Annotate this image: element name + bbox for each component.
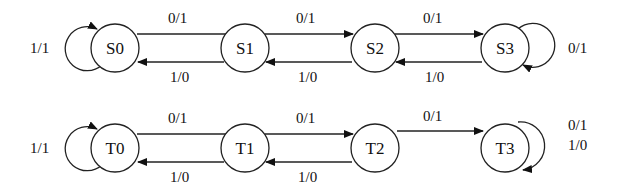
state-t3: T3 <box>481 124 529 172</box>
state-s1: S1 <box>221 24 269 72</box>
edge-label: 0/1 <box>423 108 442 124</box>
state-s3: S3 <box>481 24 529 72</box>
edge-label: 1/0 <box>425 69 444 85</box>
transition-s3-s2: 1/0 <box>396 62 482 85</box>
transition-s1-s0: 1/0 <box>138 62 224 85</box>
transition-t1-t0: 1/0 <box>138 162 224 185</box>
state-label: S0 <box>106 39 124 58</box>
edge-label: 1/0 <box>170 169 189 185</box>
transition-t0-t1: 0/1 <box>137 110 243 134</box>
transition-t2-t3: 0/1 <box>397 108 483 131</box>
machine-s: 1/1 0/1 1/0 0/1 1/0 0/1 1/0 <box>30 10 587 85</box>
edge-label: 0/1 <box>296 110 315 126</box>
edge-label: 1/0 <box>298 169 317 185</box>
state-t0: T0 <box>91 124 139 172</box>
transition-t1-t2: 0/1 <box>265 110 353 134</box>
state-diagram: 1/1 0/1 1/0 0/1 1/0 0/1 1/0 <box>0 0 623 189</box>
state-label: S3 <box>496 39 514 58</box>
state-label: S2 <box>366 39 384 58</box>
state-t2: T2 <box>351 124 399 172</box>
state-label: T0 <box>106 139 125 158</box>
edge-label: 0/1 <box>423 10 442 26</box>
state-s2: S2 <box>351 24 399 72</box>
state-t1: T1 <box>221 124 269 172</box>
edge-label: 1/0 <box>298 69 317 85</box>
state-label: T1 <box>236 139 255 158</box>
transition-s2-s1: 1/0 <box>266 62 352 85</box>
edge-label: 0/1 <box>296 10 315 26</box>
transition-s1-s2: 0/1 <box>265 10 353 34</box>
edge-label: 1/1 <box>30 140 49 156</box>
edge-label: 0/1 <box>568 40 587 56</box>
state-label: T2 <box>366 139 385 158</box>
transition-t2-t1: 1/0 <box>266 162 352 185</box>
edge-label: 1/0 <box>170 69 189 85</box>
state-label: T3 <box>496 139 515 158</box>
edge-label: 1/1 <box>30 40 49 56</box>
edge-label: 0/1 <box>168 10 187 26</box>
machine-t: 1/1 0/1 1/0 0/1 1/0 0/1 0/1 <box>30 108 587 185</box>
state-s0: S0 <box>91 24 139 72</box>
transition-s0-s1: 0/1 <box>137 10 243 34</box>
state-label: S1 <box>236 39 254 58</box>
edge-label-0-1: 0/1 <box>568 117 587 133</box>
edge-label: 0/1 <box>168 110 187 126</box>
transition-s2-s3: 0/1 <box>395 10 483 34</box>
edge-label-1-0: 1/0 <box>568 137 587 153</box>
